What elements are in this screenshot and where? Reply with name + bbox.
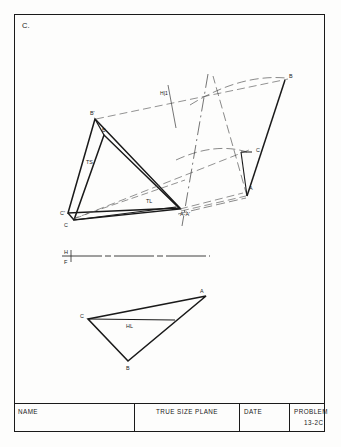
rotation-radius-line	[213, 76, 247, 196]
front-view-label-horizontal-line: HL	[126, 323, 133, 329]
title-block-cell-name: NAME	[14, 404, 134, 432]
top-view-group: B' B C' C A-A' TS TL	[60, 110, 190, 228]
projection-ray-a	[181, 196, 246, 211]
projection-ray-b	[96, 79, 288, 119]
title-block-problem-number: 13-2C	[304, 419, 323, 426]
aux-view-label-b: B	[289, 73, 293, 79]
top-view-true-length-line	[74, 207, 176, 220]
top-view-c-link	[68, 213, 74, 220]
aux-view-label-c: C	[256, 147, 260, 153]
front-view-label-a: A	[200, 288, 204, 294]
auxiliary-construction-group: H|1 B C A	[74, 73, 293, 226]
title-block-cell-date: DATE	[239, 404, 289, 432]
top-view-label-true-length: TL	[146, 198, 152, 204]
front-view-horizontal-line	[88, 319, 175, 320]
title-block-plane-label: TRUE SIZE PLANE	[156, 408, 218, 415]
top-view-original-triangle	[74, 135, 180, 220]
reference-label-h: H	[64, 249, 68, 255]
aux-view-label-a: A	[249, 185, 253, 191]
drawing-sheet: C. B' B C' C A-A' TS TL	[0, 0, 341, 447]
top-view-label-b-prime: B'	[90, 110, 95, 116]
top-view-label-c: C	[64, 222, 68, 228]
top-view-label-c-prime: C'	[60, 210, 65, 216]
reference-label-f: F	[64, 259, 68, 265]
technical-drawing: B' B C' C A-A' TS TL H|1	[0, 0, 341, 447]
reference-line-group: H F	[62, 249, 210, 265]
title-block-cell-plane: TRUE SIZE PLANE	[134, 404, 239, 432]
title-block-cell-problem: PROBLEM 13-2C	[289, 404, 325, 432]
title-block-date-label: DATE	[244, 408, 262, 415]
top-view-label-true-size: TS	[86, 159, 93, 165]
title-block: NAME TRUE SIZE PLANE DATE PROBLEM 13-2C	[14, 403, 325, 432]
fold-line-label-h1: H|1	[160, 90, 168, 96]
aux-edge-a-b	[247, 80, 285, 196]
title-block-problem-label: PROBLEM	[294, 408, 328, 415]
fold-line-secondary	[168, 85, 176, 128]
front-view-triangle	[88, 296, 206, 361]
front-view-label-b: B	[126, 365, 130, 371]
title-block-name-label: NAME	[18, 408, 38, 415]
top-view-label-b: B	[102, 127, 106, 133]
front-view-label-c: C	[80, 313, 84, 319]
aux-edge-a-c	[241, 152, 247, 196]
top-view-true-size-triangle	[68, 119, 180, 213]
rotation-arc-outer	[190, 78, 286, 105]
front-view-group: A C B HL	[80, 288, 206, 371]
top-view-label-a-a-prime: A-A'	[180, 211, 190, 217]
